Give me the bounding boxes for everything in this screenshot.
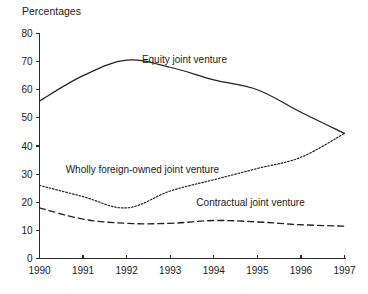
y-axis: 01020304050607080 [21,28,39,264]
series-inline-labels: Equity joint ventureWholly foreign-owned… [66,54,306,208]
series-label-0: Equity joint venture [142,54,227,65]
chart-container: Percentages 01020304050607080 1990199119… [0,0,368,294]
x-axis: 19901991199219931994199519961997 [28,255,356,276]
y-tick-label: 20 [21,197,33,208]
line-chart-plot: 01020304050607080 1990199119921993199419… [0,0,368,294]
series-line-0 [40,60,345,133]
y-tick-label: 30 [21,169,33,180]
x-tick-label: 1991 [72,265,95,276]
x-tick-label: 1990 [28,265,51,276]
series-label-2: Contractual joint venture [196,197,305,208]
y-tick-label: 50 [21,112,33,123]
x-tick-label: 1995 [246,265,269,276]
x-tick-label: 1997 [333,265,356,276]
y-tick-label: 40 [21,141,33,152]
y-tick-label: 70 [21,56,33,67]
y-tick-label: 10 [21,225,33,236]
series-line-2 [40,208,345,226]
x-tick-label: 1993 [159,265,182,276]
y-tick-label: 0 [27,253,33,264]
x-tick-label: 1994 [203,265,226,276]
series-label-1: Wholly foreign-owned joint venture [66,164,220,175]
y-tick-label: 60 [21,84,33,95]
x-tick-label: 1992 [116,265,139,276]
y-tick-label: 80 [21,28,33,39]
x-tick-label: 1996 [290,265,313,276]
